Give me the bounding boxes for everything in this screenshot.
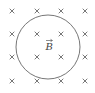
field-label: B — [45, 39, 53, 52]
field-cross-icon — [59, 9, 64, 14]
field-label-text: B — [45, 41, 53, 52]
field-cross-icon — [10, 79, 15, 84]
field-cross-icon — [35, 9, 40, 14]
field-cross-icon — [59, 55, 64, 60]
field-cross-icon — [35, 55, 40, 60]
field-cross-icon — [59, 32, 64, 37]
field-cross-icon — [10, 55, 15, 60]
field-cross-icon — [59, 79, 64, 84]
field-cross-icon — [83, 32, 88, 37]
field-cross-icon — [83, 9, 88, 14]
field-cross-icon — [35, 32, 40, 37]
field-cross-icon — [83, 79, 88, 84]
magnetic-field-diagram: B — [0, 0, 95, 93]
field-cross-icon — [35, 79, 40, 84]
field-cross-icon — [10, 9, 15, 14]
field-cross-icon — [83, 55, 88, 60]
field-cross-icon — [10, 32, 15, 37]
